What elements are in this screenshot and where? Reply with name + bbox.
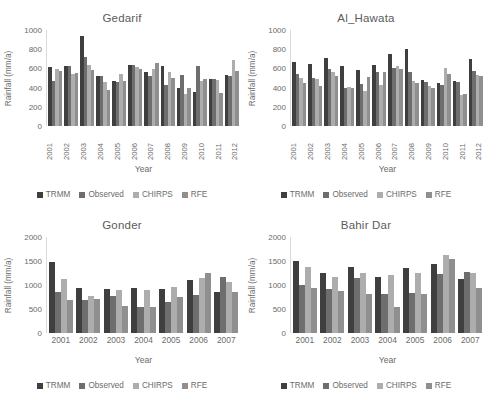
legend-item[interactable]: TRMM [37,190,71,199]
bar [232,292,238,333]
x-tick: 2002 [75,335,103,349]
bar-group [79,30,95,126]
bar [366,294,372,333]
plot-area [291,30,484,126]
bar [351,88,355,126]
y-tick-label: 1000 [24,26,42,35]
legend-item[interactable]: Observed [79,190,124,199]
x-tick-label: 2002 [323,335,342,349]
chart-panel-gedarif: Gedarif Rainfall (mm/a) 0200400600800100… [0,0,244,207]
legend-item[interactable]: Observed [323,381,368,390]
legend-swatch-icon [37,383,43,389]
bar [463,94,467,126]
plot-wrap: Rainfall (mm/a) 02004006008001000 200120… [0,30,244,126]
legend-swatch-icon [79,383,85,389]
legend-item[interactable]: CHIRPS [377,190,417,199]
x-axis-ticks: 2001200220032004200520062007 [291,335,484,349]
legend: TRMMObservedCHIRPSRFE [244,190,488,199]
legend-item[interactable]: TRMM [281,190,315,199]
x-tick-label: 2003 [107,335,126,349]
x-axis-ticks: 2001200220032004200520062007 [47,335,240,349]
y-tick-label: 800 [29,45,42,54]
x-tick-label: 2001 [295,335,314,349]
bar [155,63,159,126]
bar [94,299,100,333]
legend-item[interactable]: TRMM [37,381,71,390]
legend-item[interactable]: CHIRPS [133,190,173,199]
bar-group [436,30,452,126]
legend-swatch-icon [281,192,287,198]
legend-item[interactable]: RFE [182,381,207,390]
y-tick-label: 0 [38,122,42,131]
plot-area [47,30,240,126]
legend-item[interactable]: RFE [426,190,451,199]
legend-swatch-icon [323,383,329,389]
bar [123,81,127,126]
panel-title: Bahir Dar [244,207,488,231]
x-axis-ticks: 2001200220032004200520062007200820092010… [47,128,240,162]
x-tick: 2005 [401,335,429,349]
x-tick-label: 2012 [474,143,488,160]
legend-label: TRMM [46,190,71,199]
bar [205,273,211,333]
x-tick: 2002 [319,335,347,349]
legend-label: RFE [191,190,207,199]
bar-group [192,30,208,126]
bar [319,86,323,126]
figure-grid: Gedarif Rainfall (mm/a) 0200400600800100… [0,0,488,413]
y-tick-label: 200 [29,102,42,111]
legend-item[interactable]: TRMM [281,381,315,390]
legend-label: RFE [435,190,451,199]
legend-label: CHIRPS [386,190,417,199]
plot-area [47,237,240,333]
x-tick-label: 2003 [351,335,370,349]
legend-label: TRMM [290,190,315,199]
chart-panel-al-hawata: Al_Hawata Rainfall (mm/a) 02004006008001… [244,0,488,207]
legend-item[interactable]: CHIRPS [377,381,417,390]
legend-item[interactable]: Observed [323,190,368,199]
plot-wrap: Rainfall (mm/a) 0500100015002000 2001200… [244,237,488,333]
x-tick-label: 2004 [134,335,153,349]
bar-group [127,30,143,126]
legend-label: CHIRPS [142,381,173,390]
bar-group [291,30,307,126]
x-tick-label: 2002 [79,335,98,349]
x-tick: 2003 [102,335,130,349]
legend-item[interactable]: Observed [79,381,124,390]
x-tick-label: 2006 [433,335,452,349]
y-tick-label: 2000 [268,233,286,242]
bar-group [63,30,79,126]
legend-swatch-icon [426,192,432,198]
bar-group [374,237,402,333]
y-tick-label: 1000 [268,26,286,35]
x-axis-label: Year [291,355,484,365]
bar [235,71,239,126]
bar [415,83,419,126]
bar-group [429,237,457,333]
y-tick-label: 200 [273,102,286,111]
bar [449,259,455,333]
bar-group [401,237,429,333]
bar-group [456,237,484,333]
legend-swatch-icon [133,192,139,198]
bar [431,88,435,126]
y-tick-label: 500 [29,305,42,314]
bar [303,83,307,126]
legend-item[interactable]: RFE [426,381,451,390]
panel-title: Gedarif [0,0,244,24]
x-tick: 2012 [476,128,488,162]
bar [187,88,191,126]
legend-item[interactable]: RFE [182,190,207,199]
x-tick-label: 2006 [189,335,208,349]
legend-label: RFE [191,381,207,390]
x-axis-label: Year [47,164,240,174]
y-axis-ticks: 0500100015002000 [14,237,44,333]
y-axis-ticks: 02004006008001000 [258,30,288,126]
bar [338,291,344,333]
bar [367,77,371,126]
y-tick-label: 600 [29,64,42,73]
bar-group [111,30,127,126]
legend-item[interactable]: CHIRPS [133,381,173,390]
x-tick-label: 2001 [51,335,70,349]
bar-group [404,30,420,126]
